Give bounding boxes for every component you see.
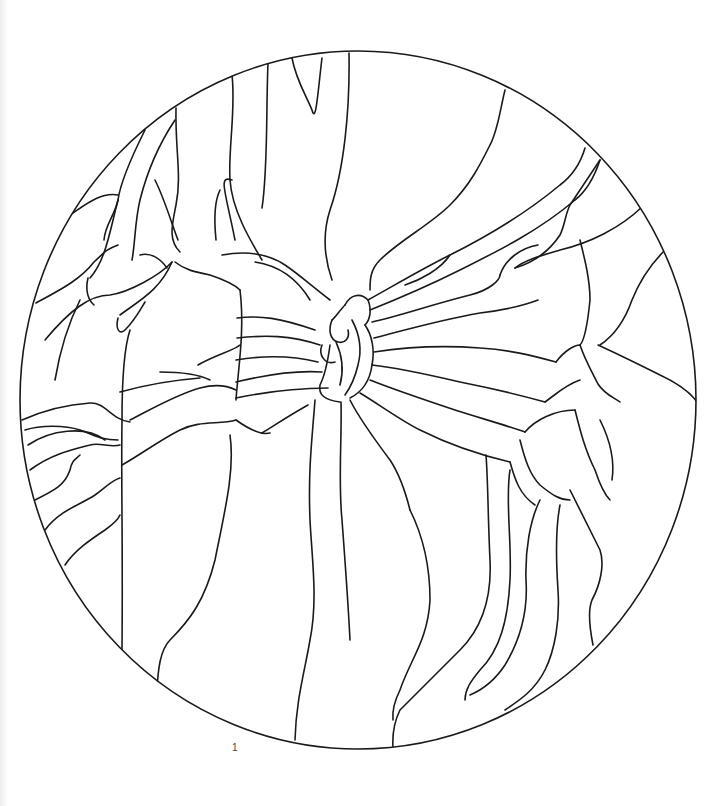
lead-line xyxy=(175,262,240,290)
lead-line xyxy=(104,130,145,240)
lead-line xyxy=(222,253,330,300)
lead-line xyxy=(122,330,130,650)
lead-line xyxy=(45,262,172,340)
page-canvas: 1 xyxy=(0,0,717,806)
lead-line xyxy=(30,444,120,470)
lead-line xyxy=(330,320,348,342)
lead-line xyxy=(598,345,697,402)
lead-line xyxy=(370,380,525,432)
lead-line xyxy=(198,345,240,365)
lead-line xyxy=(132,120,175,260)
lead-line xyxy=(332,305,345,320)
lead-line xyxy=(510,462,535,505)
lead-line xyxy=(345,320,360,395)
lead-line xyxy=(600,420,613,480)
lead-line xyxy=(236,372,322,382)
lead-line xyxy=(525,410,575,432)
lead-line xyxy=(405,255,450,285)
page-number: 1 xyxy=(232,742,238,753)
lead-line xyxy=(370,160,600,310)
lead-line xyxy=(545,380,580,402)
lead-line xyxy=(36,245,118,303)
lead-line xyxy=(570,490,602,645)
lead-line xyxy=(215,190,220,240)
lead-line xyxy=(22,403,130,422)
lead-line xyxy=(130,386,236,420)
lead-line xyxy=(65,515,120,565)
lead-line xyxy=(520,440,570,500)
lead-line xyxy=(575,410,610,500)
lead-line xyxy=(292,58,322,114)
lead-line xyxy=(336,342,342,385)
lead-line xyxy=(255,262,310,300)
lead-line xyxy=(236,388,328,398)
lead-line xyxy=(372,365,545,402)
lead-line xyxy=(157,435,231,690)
lead-line xyxy=(393,510,430,720)
lead-line xyxy=(580,240,590,345)
lead-line xyxy=(340,402,350,640)
lead-line xyxy=(374,300,538,338)
lead-line xyxy=(237,317,315,330)
lead-lines-group xyxy=(22,53,697,748)
lead-line xyxy=(600,250,665,345)
lead-line xyxy=(224,179,235,240)
stained-glass-line-drawing xyxy=(0,0,717,806)
lead-line xyxy=(140,254,167,268)
lead-line xyxy=(262,405,308,433)
lead-line xyxy=(28,431,105,445)
lead-line xyxy=(55,300,80,380)
lead-line xyxy=(350,325,373,398)
lead-line xyxy=(237,336,320,345)
lead-line xyxy=(350,400,410,510)
lead-line xyxy=(45,478,120,530)
lead-line xyxy=(120,378,200,392)
lead-line xyxy=(320,345,340,402)
lead-line xyxy=(236,357,318,362)
lead-line xyxy=(230,75,262,260)
lead-line xyxy=(295,400,315,740)
lead-line xyxy=(122,420,236,465)
lead-line xyxy=(172,108,180,252)
lead-line xyxy=(262,63,268,208)
lead-line xyxy=(370,90,505,290)
lead-line xyxy=(505,505,560,710)
lead-line xyxy=(580,345,620,402)
lead-line xyxy=(556,345,580,362)
lead-line xyxy=(374,347,556,362)
lead-line xyxy=(515,207,642,268)
lead-line xyxy=(325,53,349,280)
lead-line xyxy=(470,500,540,695)
lead-line xyxy=(345,295,370,325)
